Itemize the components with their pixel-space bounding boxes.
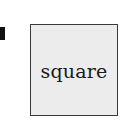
square-label: square — [40, 62, 107, 81]
square-shape: square — [30, 24, 118, 116]
cropped-edge-mark — [0, 27, 5, 40]
